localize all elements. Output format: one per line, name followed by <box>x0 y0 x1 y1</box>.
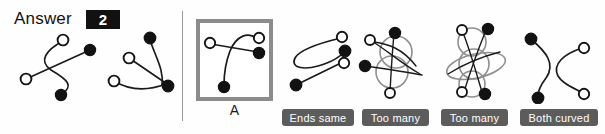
node-open <box>579 89 589 99</box>
node-open <box>124 53 135 64</box>
option-b[interactable] <box>282 24 356 96</box>
node-filled <box>525 33 537 45</box>
option-b-graphic <box>282 24 356 96</box>
node-filled <box>359 60 370 71</box>
node-open <box>365 35 375 45</box>
option-d-feedback-chip: Too many <box>441 109 508 126</box>
option-d[interactable] <box>438 18 516 104</box>
node-filled <box>290 79 302 91</box>
node-filled <box>339 45 351 57</box>
stimulus-page: Answer 2 <box>0 0 605 134</box>
option-b-feedback-chip: Ends same <box>282 109 354 126</box>
section-divider <box>182 11 183 121</box>
node-filled <box>532 92 544 104</box>
option-e[interactable] <box>518 22 596 104</box>
option-e-feedback-chip: Both curved <box>520 109 598 126</box>
prompt-figure-1 <box>16 28 100 102</box>
node-open <box>385 88 395 98</box>
option-c[interactable] <box>358 22 436 102</box>
option-c-graphic <box>358 22 436 102</box>
node-open <box>339 58 349 68</box>
option-a-graphic <box>202 25 271 99</box>
option-c-feedback-chip: Too many <box>362 109 429 126</box>
node-filled <box>253 47 264 58</box>
node-filled <box>389 27 400 38</box>
node-filled <box>218 81 229 92</box>
node-filled <box>479 88 490 99</box>
node-open <box>21 74 32 85</box>
node-filled <box>144 32 156 44</box>
prompt-figure-2 <box>106 26 182 104</box>
node-open <box>579 43 589 53</box>
node-open <box>457 87 467 97</box>
node-open <box>254 33 264 43</box>
answer-header: Answer 2 <box>14 8 120 30</box>
prompt-figure-2-graphic <box>106 26 182 104</box>
node-filled <box>162 80 174 92</box>
node-filled <box>55 89 66 100</box>
option-d-graphic <box>438 18 516 104</box>
option-a-selected-box[interactable] <box>196 19 273 101</box>
node-filled <box>482 23 493 34</box>
option-e-graphic <box>518 22 596 104</box>
node-open <box>109 76 120 87</box>
node-open <box>205 38 215 48</box>
node-filled <box>84 44 95 55</box>
node-open <box>58 35 69 46</box>
answer-label: Answer <box>14 9 72 29</box>
node-open <box>337 32 347 42</box>
option-a-letter: A <box>196 102 273 118</box>
node-open <box>457 25 467 35</box>
prompt-figure-1-graphic <box>16 28 100 102</box>
